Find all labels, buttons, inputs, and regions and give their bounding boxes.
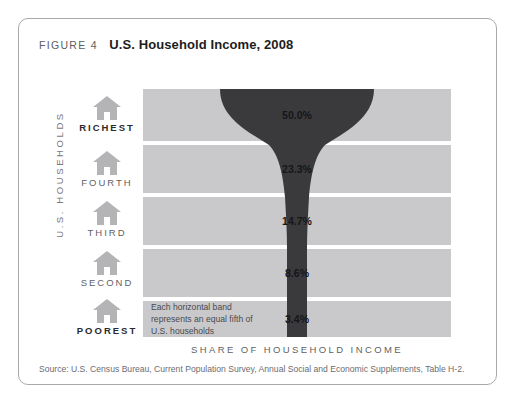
value-label-second: 8.6% xyxy=(285,267,309,279)
value-label-richest: 50.0% xyxy=(282,109,312,121)
category-row-fourth: FOURTH xyxy=(69,150,145,188)
house-icon xyxy=(92,95,122,121)
house-icon xyxy=(92,150,122,176)
category-row-poorest: POOREST xyxy=(69,298,145,336)
figure-card: FIGURE 4 U.S. Household Income, 2008 U.S… xyxy=(18,18,497,385)
value-label-poorest: 3.4% xyxy=(285,313,309,325)
category-label: THIRD xyxy=(69,227,145,238)
value-label-fourth: 23.3% xyxy=(282,163,312,175)
category-label: FOURTH xyxy=(69,177,145,188)
house-icon xyxy=(92,250,122,276)
category-row-second: SECOND xyxy=(69,250,145,288)
y-axis-title: U.S. HOUSEHOLDS xyxy=(54,90,65,260)
category-row-third: THIRD xyxy=(69,200,145,238)
figure-number-label: FIGURE 4 xyxy=(39,39,98,51)
figure-header: FIGURE 4 U.S. Household Income, 2008 xyxy=(39,35,293,53)
source-note: Source: U.S. Census Bureau, Current Popu… xyxy=(39,364,464,374)
page-title: U.S. Household Income, 2008 xyxy=(109,37,293,52)
x-axis-title: SHARE OF HOUSEHOLD INCOME xyxy=(143,344,451,355)
house-icon xyxy=(92,298,122,324)
category-label: SECOND xyxy=(69,277,145,288)
category-label: POOREST xyxy=(69,325,145,336)
band-annotation: Each horizontal band represents an equal… xyxy=(151,301,271,338)
category-label: RICHEST xyxy=(69,122,145,133)
value-label-third: 14.7% xyxy=(282,215,312,227)
house-icon xyxy=(92,200,122,226)
income-funnel-chart xyxy=(143,89,451,337)
chart-plot-area: 50.0% 23.3% 14.7% 8.6% 3.4% Each horizon… xyxy=(143,89,451,337)
category-row-richest: RICHEST xyxy=(69,95,145,133)
